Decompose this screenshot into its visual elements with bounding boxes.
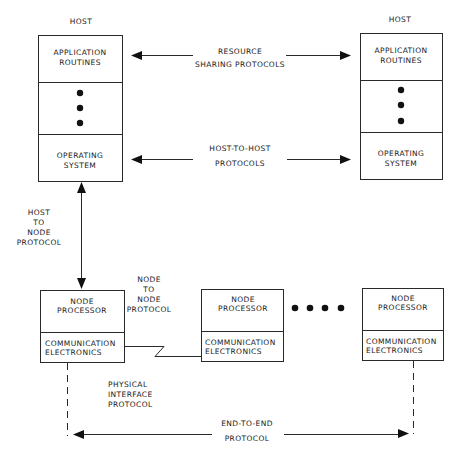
host-left-app-line2: ROUTINES [59,58,101,67]
host-right-os-line1: OPERATING [378,149,424,158]
arrow-right-icon [398,429,409,438]
node-3-top-line1: NODE [391,294,415,303]
arrow-up-icon [77,182,86,193]
host-right-app-line1: APPLICATION [374,46,427,55]
host-to-host-line1: HOST-TO-HOST [209,144,270,153]
node-to-node-label: NODE TO NODE PROTOCOL [127,275,172,314]
physical-interface-line3: PROTOCOL [108,400,153,409]
node-to-node-line3: NODE [137,295,161,304]
host-to-host-connector: HOST-TO-HOST PROTOCOLS [131,144,351,168]
host-right-os-line2: SYSTEM [385,159,417,168]
node-2-top-line2: PROCESSOR [218,304,268,313]
arrow-right-icon [340,155,351,164]
node-2-bottom-line2: ELECTRONICS [205,347,262,356]
arrow-right-icon [340,51,351,60]
node-2-top-line1: NODE [231,295,255,304]
host-to-node-line4: PROTOCOL [17,238,62,247]
node-1-bottom-line1: COMMUNICATION [45,339,116,348]
host-left-label: HOST [70,17,93,26]
end-to-end-line2: PROTOCOL [225,434,270,443]
host-left-os-line2: SYSTEM [64,161,96,170]
node-1: NODE PROCESSOR COMMUNICATION ELECTRONICS [41,291,125,363]
host-to-node-line2: TO [32,218,44,227]
physical-link-line [125,347,202,357]
host-to-host-line2: PROTOCOLS [215,159,265,168]
node-1-bottom-line2: ELECTRONICS [45,348,102,357]
host-left: HOST APPLICATION ROUTINES OPERATING SYST… [39,17,123,182]
arrow-down-icon [77,278,86,289]
node-1-top-line1: NODE [70,297,94,306]
node-3: NODE PROCESSOR COMMUNICATION ELECTRONICS [363,289,444,361]
host-to-node-line1: HOST [28,208,51,217]
node-2: NODE PROCESSOR COMMUNICATION ELECTRONICS [202,290,284,362]
node-to-node-line2: TO [142,285,154,294]
host-to-node-connector: HOST TO NODE PROTOCOL [17,182,86,289]
node-to-node-line4: PROTOCOL [127,305,172,314]
node-1-top-line2: PROCESSOR [57,306,107,315]
node-3-bottom-line1: COMMUNICATION [366,337,437,346]
host-left-os-line1: OPERATING [57,151,103,160]
host-right: HOST APPLICATION ROUTINES OPERATING SYST… [361,15,443,180]
end-to-end-line1: END-TO-END [221,419,273,428]
arrow-left-icon [131,155,142,164]
physical-interface-line2: INTERFACE [108,390,153,399]
resource-sharing-line1: RESOURCE [218,47,262,56]
vertical-ellipsis-icon [77,90,83,126]
node-3-bottom-line2: ELECTRONICS [366,346,423,355]
host-right-label: HOST [389,15,412,24]
host-right-app-line2: ROUTINES [380,56,422,65]
host-left-app-line1: APPLICATION [53,48,106,57]
arrow-left-icon [131,51,142,60]
host-to-node-line3: NODE [27,228,51,237]
resource-sharing-line2: SHARING PROTOCOLS [195,60,285,69]
resource-sharing-connector: RESOURCE SHARING PROTOCOLS [131,47,351,69]
physical-interface-label: PHYSICAL INTERFACE PROTOCOL [108,380,153,409]
physical-interface-line1: PHYSICAL [108,380,148,389]
node-3-top-line2: PROCESSOR [378,303,428,312]
horizontal-ellipsis-icon [292,305,345,312]
protocol-diagram: HOST APPLICATION ROUTINES OPERATING SYST… [0,0,458,460]
arrow-left-icon [73,430,84,439]
node-to-node-line1: NODE [137,275,161,284]
node-2-bottom-line1: COMMUNICATION [205,338,276,347]
